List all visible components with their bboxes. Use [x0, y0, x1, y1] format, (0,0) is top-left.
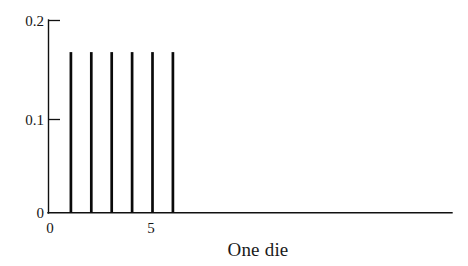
y-tick-label-zero: 0 [37, 205, 45, 221]
one-die-probability-spike-chart: 0.2 0.1 0 0 5 One die [0, 0, 468, 266]
x-axis-title: One die [227, 239, 288, 260]
y-tick-label-top: 0.2 [25, 13, 44, 29]
y-tick-label-mid: 0.1 [25, 112, 44, 128]
x-tick-label-five: 5 [147, 220, 155, 236]
x-tick-label-zero: 0 [46, 220, 54, 236]
chart-figure: 0.2 0.1 0 0 5 One die [0, 0, 468, 266]
